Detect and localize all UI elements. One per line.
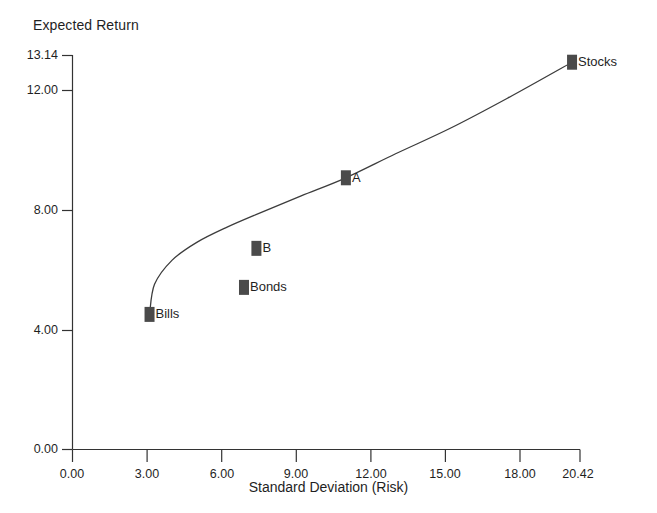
x-tick-marks <box>73 450 581 463</box>
data-point-label-stocks: Stocks <box>578 54 617 69</box>
y-axis-title: Expected Return <box>33 17 139 33</box>
x-tick-label-3-00: 3.00 <box>135 467 159 481</box>
x-axis-title: Standard Deviation (Risk) <box>0 479 657 495</box>
data-point-label-bonds: Bonds <box>250 279 287 294</box>
y-tick-label-12-00: 12.00 <box>6 83 58 97</box>
y-tick-label-0-00: 0.00 <box>6 442 58 456</box>
data-point-label-bills: Bills <box>156 306 180 321</box>
chart-container: Expected Return Standard Deviation (Risk… <box>0 0 657 513</box>
data-point-marker-stocks <box>567 55 577 70</box>
data-point-label-b: B <box>262 240 271 255</box>
x-tick-label-12-00: 12.00 <box>355 467 386 481</box>
x-tick-label-18-00: 18.00 <box>504 467 535 481</box>
plot-area <box>0 0 657 513</box>
efficient-frontier-curve <box>150 62 573 314</box>
x-tick-label-15-00: 15.00 <box>429 467 460 481</box>
data-point-label-a: A <box>352 170 361 185</box>
x-tick-label-0-00: 0.00 <box>60 467 84 481</box>
data-point-marker-a <box>341 170 351 185</box>
y-tick-marks <box>62 56 73 450</box>
data-point-marker-bills <box>145 307 155 322</box>
x-tick-label-9-00: 9.00 <box>284 467 308 481</box>
y-tick-label-4-00: 4.00 <box>6 323 58 337</box>
data-point-marker-bonds <box>239 280 249 295</box>
x-tick-label-6-00: 6.00 <box>210 467 234 481</box>
y-tick-label-8-00: 8.00 <box>6 203 58 217</box>
data-point-marker-b <box>251 241 261 256</box>
y-tick-label-13-14: 13.14 <box>6 48 58 62</box>
data-point-markers <box>145 55 578 322</box>
x-tick-label-20-42: 20.42 <box>562 467 593 481</box>
